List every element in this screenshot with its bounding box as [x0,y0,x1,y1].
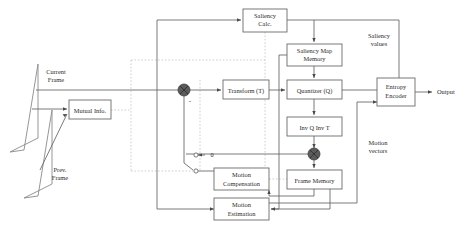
arrow-transform-in [217,88,221,91]
prev-frame-label-line1: Prev. [54,166,67,173]
arrow-motionest-in-right [271,207,275,210]
dotted-saliency-routes [111,32,287,179]
inv-q-inv-t-label: Inv Q Inv T [299,124,329,131]
saliency-calc-label-line2: Calc. [258,20,272,27]
arrow-saliency-calc-in [237,18,241,21]
transform-label: Transform (T) [228,87,265,95]
current-frame-shape [10,64,38,152]
motion-estimation-label-line1: Motion [232,201,252,208]
saliency-values-label-line2: values [371,40,388,47]
block-entropy-encoder[interactable]: Entropy Encoder [377,78,415,106]
frame-memory-label: Frame Memory [295,177,336,184]
motion-vectors-label-line2: vectors [369,147,388,154]
saliency-values-label-line1: Saliency [368,32,391,39]
arrow-motionest-out-left [210,207,214,210]
switch-terminal-zero[interactable] [194,153,198,157]
block-quantizer[interactable]: Quantizer (Q) [287,80,342,99]
mutual-info-label: Mutual Info. [74,107,107,114]
block-frame-memory[interactable]: Frame Memory [287,170,342,189]
arrow-quantizer-in [281,88,285,91]
motion-estimation-label-line2: Estimation [228,210,256,217]
switch-zero-label: 0 [210,151,213,158]
switch-terminal-mc[interactable] [194,169,198,173]
saliency-map-memory-label-line2: Memory [303,55,326,62]
wire-prev-to-mutualinfo [40,114,67,170]
block-transform[interactable]: Transform (T) [223,80,269,99]
current-frame-label-line1: Current [46,68,66,75]
arrow-framemem-in [312,164,315,168]
arrow-invq-in [312,111,315,115]
block-diagram-svg: Current Frame Prev. Frame [0,0,467,229]
annotation-output: Output [437,88,455,95]
arrow-motion-vectors-in [373,100,377,103]
annotation-saliency-values: Saliency values [368,32,391,47]
block-saliency-map-memory[interactable]: Saliency Map Memory [287,44,342,66]
annotation-motion-vectors: Motion vectors [369,139,389,154]
motion-compensation-label-line1: Motion [232,171,252,178]
quantizer-label: Quantizer (Q) [297,87,333,95]
arrow-saliencymap-in [312,38,315,42]
wire-motionest-to-left-rail [157,90,214,209]
prev-frame-label-line2: Frame [52,174,68,181]
arrow-quantizer-ctrl-in [312,74,315,78]
sum-node-1: - [178,84,192,105]
block-motion-compensation[interactable]: Motion Compensation [214,168,269,190]
block-inv-q-inv-t[interactable]: Inv Q Inv T [287,117,342,136]
block-motion-estimation[interactable]: Motion Estimation [214,198,269,220]
arrow-motioncomp-ctrl-in [267,190,270,194]
wire-framemem-to-motioncomp [269,189,314,196]
switch-lever[interactable] [184,163,193,170]
wire-to-saliency-calc [157,20,241,90]
block-saliency-calc[interactable]: Saliency Calc. [243,9,287,32]
saliency-map-memory-label-line1: Saliency Map [297,47,332,54]
arrow-output [428,90,432,93]
input-frames: Current Frame Prev. Frame [10,64,68,198]
arrow-sum2-in [312,144,315,148]
wire-framemem-to-motionest [271,189,330,209]
saliency-calc-label-line1: Saliency [254,12,277,19]
block-mutual-info[interactable]: Mutual Info. [69,100,111,119]
sum-node-2 [308,148,320,160]
wire-saliencymap-to-motionest [271,55,287,209]
entropy-encoder-label-line2: Encoder [385,92,407,99]
current-frame-label-line2: Frame [48,76,64,83]
motion-vectors-label-line1: Motion [369,139,389,146]
arrow-mutualinfo-in1 [63,107,67,110]
motion-compensation-label-line2: Compensation [223,180,261,187]
sum-node-1-minus-sign: - [189,97,192,105]
diagram-canvas: Current Frame Prev. Frame [0,0,467,229]
entropy-encoder-label-line1: Entropy [386,83,407,90]
output-label: Output [437,88,455,95]
